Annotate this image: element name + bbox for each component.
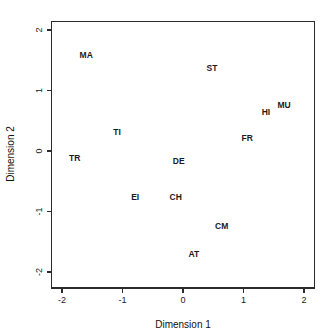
figure-background <box>0 0 331 336</box>
plot-canvas: -2-1012 -2-1012 MASTMUHITIFRTRDEEICHCMAT… <box>0 0 331 336</box>
y-tick-label: 0 <box>34 148 44 153</box>
data-point-label-fr: FR <box>241 133 252 143</box>
y-axis-title: Dimension 2 <box>5 126 16 182</box>
data-point-label-ti: TI <box>113 127 121 137</box>
y-tick-label: -1 <box>34 207 44 215</box>
data-point-label-mu: MU <box>277 100 290 110</box>
x-axis-title: Dimension 1 <box>155 319 211 330</box>
data-point-label-hi: HI <box>262 107 271 117</box>
x-tick-label: 1 <box>241 295 246 305</box>
data-point-label-tr: TR <box>69 153 80 163</box>
x-tick-label: -2 <box>58 295 66 305</box>
data-point-label-de: DE <box>173 156 185 166</box>
y-tick-label: 1 <box>34 88 44 93</box>
x-tick-label: -1 <box>118 295 126 305</box>
data-point-label-cm: CM <box>215 221 228 231</box>
data-point-label-ch: CH <box>170 192 182 202</box>
data-point-label-ma: MA <box>80 50 93 60</box>
x-tick-label: 2 <box>301 295 306 305</box>
y-tick-label: 2 <box>34 27 44 32</box>
data-point-label-ei: EI <box>131 192 139 202</box>
scatter-plot-figure: -2-1012 -2-1012 MASTMUHITIFRTRDEEICHCMAT… <box>0 0 331 336</box>
data-point-label-st: ST <box>207 63 219 73</box>
data-point-label-at: AT <box>189 249 201 259</box>
y-tick-label: -2 <box>34 268 44 276</box>
x-tick-label: 0 <box>180 295 185 305</box>
